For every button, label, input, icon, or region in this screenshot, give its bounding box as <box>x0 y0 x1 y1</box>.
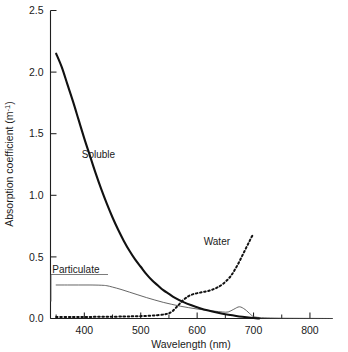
y-tick-label: 0.5 <box>29 251 44 263</box>
x-tick-label: 400 <box>76 324 94 336</box>
series-line-particulate <box>56 285 332 319</box>
series-line-water <box>56 234 253 317</box>
x-axis-title: Wavelength (nm) <box>151 338 231 350</box>
y-axis-tick-labels: 0.00.51.01.52.02.5 <box>29 4 44 324</box>
x-axis-ticks <box>84 313 310 319</box>
x-tick-label: 800 <box>301 324 319 336</box>
absorption-spectrum-chart: 0.00.51.01.52.02.5 400500600700800 Solub… <box>0 0 348 352</box>
y-tick-label: 0.0 <box>29 312 44 324</box>
y-tick-label: 1.5 <box>29 127 44 139</box>
x-tick-label: 700 <box>245 324 263 336</box>
y-tick-label: 2.5 <box>29 4 44 16</box>
particulate-leader-line <box>51 275 108 302</box>
series-label-particulate: Particulate <box>52 264 100 275</box>
y-axis-title: Absorption coefficient (m-1) <box>3 101 15 227</box>
series-group <box>56 54 332 319</box>
series-label-soluble: Soluble <box>82 149 116 160</box>
y-tick-label: 1.0 <box>29 189 44 201</box>
x-tick-label: 500 <box>132 324 150 336</box>
chart-figure: 0.00.51.01.52.02.5 400500600700800 Solub… <box>0 0 348 352</box>
series-annotations: SolubleWaterParticulate <box>52 149 230 275</box>
x-tick-label: 600 <box>188 324 206 336</box>
series-label-water: Water <box>204 236 231 247</box>
y-tick-label: 2.0 <box>29 66 44 78</box>
x-axis-tick-labels: 400500600700800 <box>76 324 319 336</box>
series-line-soluble <box>56 54 259 319</box>
